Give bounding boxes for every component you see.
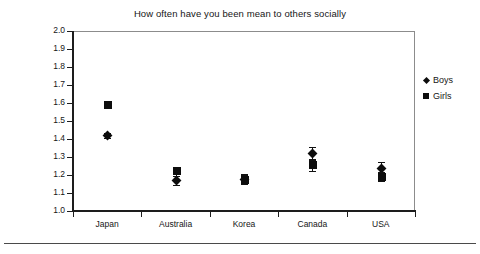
chart-figure: How often have you been mean to others s… <box>0 0 480 254</box>
square-marker-icon <box>423 93 429 99</box>
y-tick-mark <box>67 67 73 68</box>
data-point-girls-usa <box>378 173 386 181</box>
legend-label: Girls <box>433 91 452 101</box>
y-tick-mark <box>67 157 73 158</box>
y-tick-label: 1.3 <box>43 151 65 161</box>
data-point-girls-korea <box>241 176 249 184</box>
y-tick-label: 1.6 <box>43 97 65 107</box>
y-tick-label: 2.0 <box>43 25 65 35</box>
x-axis-line <box>72 210 416 212</box>
legend-item-girls[interactable]: Girls <box>423 88 478 104</box>
x-tick-mark <box>73 212 74 217</box>
data-point-girls-japan <box>104 101 112 109</box>
x-tick-label-korea: Korea <box>210 219 278 229</box>
x-tick-mark <box>141 212 142 217</box>
y-tick-mark <box>67 121 73 122</box>
y-tick-label: 1.7 <box>43 79 65 89</box>
y-tick-label: 1.4 <box>43 133 65 143</box>
chart-title: How often have you been mean to others s… <box>0 8 480 19</box>
y-tick-label: 1.0 <box>43 205 65 215</box>
x-tick-label-australia: Australia <box>142 219 210 229</box>
y-tick-mark <box>67 103 73 104</box>
y-tick-mark <box>67 49 73 50</box>
y-tick-label: 1.8 <box>43 61 65 71</box>
y-axis-line <box>72 31 74 212</box>
x-tick-label-canada: Canada <box>278 219 346 229</box>
error-bar-cap <box>309 159 316 160</box>
legend-item-boys[interactable]: Boys <box>423 72 478 88</box>
data-point-girls-canada <box>309 161 317 169</box>
x-tick-mark <box>210 212 211 217</box>
y-tick-mark <box>67 175 73 176</box>
error-bar-cap <box>309 171 316 172</box>
x-tick-label-japan: Japan <box>73 219 141 229</box>
y-tick-mark <box>67 85 73 86</box>
y-tick-label: 1.1 <box>43 187 65 197</box>
footer-divider <box>4 243 476 244</box>
y-tick-mark <box>67 139 73 140</box>
y-tick-label: 1.9 <box>43 43 65 53</box>
legend-label: Boys <box>433 75 453 85</box>
y-tick-label: 1.2 <box>43 169 65 179</box>
error-bar-cap <box>241 184 248 185</box>
y-tick-mark <box>67 31 73 32</box>
x-tick-label-usa: USA <box>347 219 415 229</box>
x-tick-mark <box>347 212 348 217</box>
diamond-marker-icon <box>423 76 430 83</box>
x-tick-mark <box>415 212 416 217</box>
error-bar-cap <box>173 176 180 177</box>
chart-legend: BoysGirls <box>423 72 478 104</box>
x-tick-mark <box>278 212 279 217</box>
y-tick-mark <box>67 193 73 194</box>
data-point-girls-australia <box>173 167 181 175</box>
y-tick-label: 1.5 <box>43 115 65 125</box>
error-bar-cap <box>378 181 385 182</box>
